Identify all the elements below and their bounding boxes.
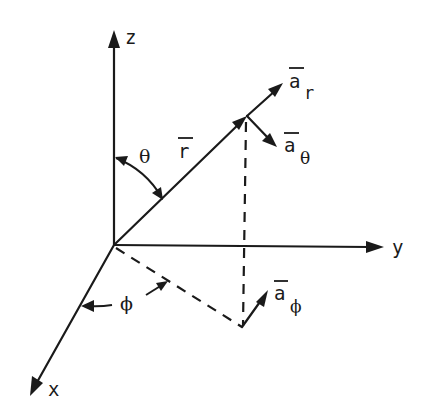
a-r-subscript: r <box>304 83 314 103</box>
r-vector-label: r <box>178 140 189 162</box>
xy-projection-dashed-line <box>116 248 242 327</box>
theta-label: θ <box>139 145 150 167</box>
phi-label: ϕ <box>120 292 133 314</box>
vertical-projection-dashed-line <box>243 122 246 326</box>
a-theta-subscript: θ <box>300 148 310 168</box>
x-axis-label: x <box>48 378 59 400</box>
a-phi-subscript: ϕ <box>290 296 302 316</box>
x-arrowhead-icon <box>30 376 43 396</box>
theta-angle: θ <box>115 145 163 200</box>
theta-arc-arrowhead-bottom-icon <box>152 187 163 200</box>
a-theta-label: a <box>284 134 295 156</box>
y-arrowhead-icon <box>366 241 384 253</box>
a-phi-label: a <box>274 282 285 304</box>
z-axis: z <box>108 26 136 245</box>
y-axis: y <box>114 236 403 258</box>
y-axis-label: y <box>392 236 403 258</box>
a-r-label: a <box>289 70 300 92</box>
a-phi-unit-vector: a ϕ <box>242 281 302 327</box>
r-vector: r <box>114 116 247 245</box>
theta-arc-arrowhead-top-icon <box>115 156 128 166</box>
z-arrowhead-icon <box>108 30 120 48</box>
spherical-coordinates-diagram: z y x r a r a θ a <box>0 0 424 417</box>
a-r-unit-vector: a r <box>247 68 314 116</box>
z-axis-label: z <box>125 26 136 48</box>
phi-angle: ϕ <box>81 281 168 314</box>
phi-arc-arrowhead-right-icon <box>156 281 168 291</box>
a-theta-unit-vector: a θ <box>247 116 310 168</box>
x-axis: x <box>30 245 114 400</box>
